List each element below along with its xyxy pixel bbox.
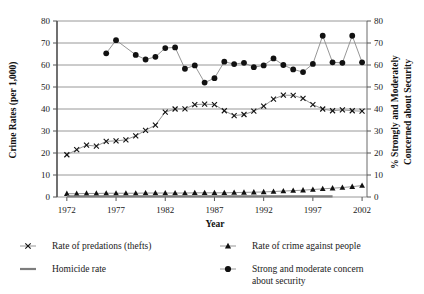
- y-axis-right-tick-labels: 01020304050607080: [374, 16, 384, 202]
- y-tick-label-left: 10: [41, 170, 51, 180]
- y-axis-right-ticks: [367, 21, 371, 197]
- data-point-circle: [330, 59, 336, 65]
- y-tick-label-left: 50: [41, 82, 51, 92]
- data-point-circle: [231, 61, 237, 67]
- series-2: [64, 182, 365, 196]
- y-tick-label-left: 0: [46, 192, 51, 202]
- data-point-circle: [300, 69, 306, 75]
- y-axis-left-title: Crime Rates (per 1,000): [8, 62, 19, 159]
- series-4: [103, 33, 365, 86]
- x-tick-label: 1992: [255, 205, 273, 215]
- data-point-circle: [280, 62, 286, 68]
- data-point-circle: [310, 61, 316, 67]
- data-point-circle: [251, 64, 257, 70]
- y-tick-label-right: 20: [374, 148, 384, 158]
- x-tick-label: 1977: [107, 205, 126, 215]
- legend-item-3: Homicide rate: [20, 264, 106, 274]
- data-point-circle: [241, 60, 247, 66]
- x-axis-ticks: [67, 197, 362, 201]
- y-axis-left-tick-labels: 01020304050607080: [41, 16, 51, 202]
- data-point-circle: [212, 75, 218, 81]
- y-tick-label-right: 60: [374, 60, 384, 70]
- legend-label: Strong and moderate concern: [252, 264, 364, 274]
- data-point-circle: [103, 50, 109, 56]
- y-tick-label-right: 50: [374, 82, 384, 92]
- gridlines: [57, 21, 367, 197]
- data-point-circle: [182, 66, 188, 72]
- legend-label-line2: about security: [252, 276, 306, 286]
- x-axis-title: Year: [206, 219, 226, 229]
- x-tick-label: 1972: [58, 205, 76, 215]
- data-point-circle: [153, 54, 159, 60]
- y-tick-label-right: 40: [374, 104, 384, 114]
- x-tick-label: 1987: [205, 205, 224, 215]
- x-tick-label: 2002: [353, 205, 371, 215]
- y-tick-label-left: 30: [41, 126, 51, 136]
- y-tick-label-right: 30: [374, 126, 384, 136]
- y-tick-label-right: 10: [374, 170, 384, 180]
- y-axis-right-title-line1: % Strongly and Moderately: [390, 55, 400, 169]
- data-point-circle: [349, 33, 355, 39]
- y-tick-label-right: 70: [374, 38, 384, 48]
- x-axis-tick-labels: 1972197719821987199219972002: [58, 205, 371, 215]
- legend-label: Rate of predations (thefts): [52, 241, 151, 252]
- chart-legend: Rate of predations (thefts)Rate of crime…: [20, 241, 364, 286]
- legend-label: Homicide rate: [52, 264, 106, 274]
- data-point-circle: [202, 80, 208, 86]
- data-point-circle: [320, 33, 326, 39]
- data-point-circle: [113, 37, 119, 43]
- series-1: [64, 93, 364, 158]
- data-point-circle: [290, 67, 296, 73]
- chart-canvas: 1972197719821987199219972002 01020304050…: [0, 0, 424, 294]
- y-tick-label-left: 40: [41, 104, 51, 114]
- y-tick-label-right: 0: [374, 192, 379, 202]
- data-point-circle: [143, 57, 149, 63]
- data-point-circle: [192, 63, 198, 69]
- y-tick-label-left: 70: [41, 38, 51, 48]
- data-point-circle: [172, 45, 178, 51]
- data-point-circle: [133, 52, 139, 58]
- data-point-circle: [221, 59, 227, 65]
- y-tick-label-right: 80: [374, 16, 384, 26]
- data-point-circle: [225, 266, 231, 272]
- y-tick-label-left: 60: [41, 60, 51, 70]
- y-axis-right-title-line2: Concerned about Security: [403, 59, 413, 165]
- data-point-circle: [339, 60, 345, 66]
- series-plot-group: [64, 33, 365, 197]
- data-point-triangle: [359, 182, 365, 187]
- data-point-triangle: [225, 243, 231, 249]
- legend-item-4: Strong and moderate concernabout securit…: [220, 264, 364, 286]
- x-tick-label: 1982: [156, 205, 174, 215]
- data-point-circle: [162, 45, 168, 51]
- chart-figure: 1972197719821987199219972002 01020304050…: [0, 0, 424, 294]
- y-tick-label-left: 80: [41, 16, 51, 26]
- legend-label: Rate of crime against people: [252, 241, 361, 251]
- data-point-circle: [271, 56, 277, 62]
- y-tick-label-left: 20: [41, 148, 51, 158]
- x-tick-label: 1997: [304, 205, 323, 215]
- legend-item-1: Rate of predations (thefts): [20, 241, 151, 252]
- legend-item-2: Rate of crime against people: [220, 241, 361, 251]
- data-point-circle: [359, 59, 365, 65]
- data-point-circle: [261, 63, 267, 69]
